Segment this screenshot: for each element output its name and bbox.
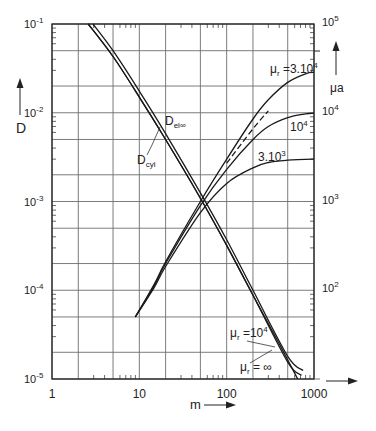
leader-line: [247, 341, 275, 347]
curve-annotations: Del∞Dcylμr =3.1041043.103μr =104μr = ∞: [137, 61, 318, 376]
series-line-3: [135, 72, 314, 317]
y-left-axis-label: D: [16, 120, 26, 136]
x-axis-right-arrow-icon: [326, 378, 358, 385]
grid-lines: [52, 24, 314, 379]
y-right-axis-label: μa: [330, 81, 344, 95]
x-tick-label: 10: [133, 387, 147, 401]
y-left-tick-label: 10-3: [24, 194, 44, 208]
y-left-tick-label: 10-4: [24, 282, 44, 296]
series-line-5: [135, 159, 314, 317]
x-axis-arrow-icon: [204, 402, 236, 409]
y-right-tick-label: 105: [322, 14, 339, 28]
curve-annotation: 104: [290, 119, 308, 134]
curve-annotation: 3.103: [258, 149, 286, 164]
x-tick-label: 1: [49, 387, 56, 401]
x-axis-label: m: [190, 397, 201, 412]
series-line-4: [135, 113, 314, 317]
curve-annotation: μr =3.104: [270, 61, 318, 78]
shielding-factor-chart: 110100100010-110-210-310-410-51051041031…: [0, 0, 376, 431]
curve-annotation: μr =104: [230, 325, 268, 342]
y-left-tick-label: 10-1: [24, 16, 44, 30]
y-left-tick-label: 10-5: [24, 371, 44, 385]
y-left-up-arrow-icon: [17, 78, 24, 115]
curve-annotation: μr = ∞: [240, 360, 272, 376]
x-tick-label: 100: [217, 387, 237, 401]
y-right-tick-label: 103: [322, 192, 339, 206]
leader-line: [152, 127, 160, 145]
leader-line: [147, 145, 152, 155]
x-tick-label: 1000: [301, 387, 328, 401]
y-right-tick-label: 104: [322, 103, 339, 117]
y-left-tick-label: 10-2: [24, 105, 44, 119]
curve-annotation: Dcyl: [137, 153, 156, 169]
y-right-up-arrow-icon: [333, 41, 340, 75]
y-right-tick-label: 102: [322, 280, 339, 294]
curve-annotation: Del∞: [165, 114, 186, 130]
